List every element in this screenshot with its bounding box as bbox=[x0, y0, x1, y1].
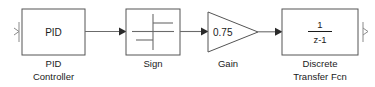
caption-discrete-transfer-fcn: Discrete Transfer Fcn bbox=[293, 58, 347, 82]
pid-caption-line-2: Controller bbox=[33, 71, 74, 82]
block-pid-controller[interactable]: PID bbox=[22, 9, 85, 55]
input-port-marker bbox=[14, 22, 19, 42]
pid-block-label: PID bbox=[45, 27, 62, 38]
transfer-fcn-caption-line-1: Discrete bbox=[303, 58, 338, 69]
pid-caption-line-1: PID bbox=[46, 58, 62, 69]
gain-block-label: 0.75 bbox=[213, 27, 233, 38]
caption-sign: Sign bbox=[143, 58, 162, 69]
signal-gain-to-transfer-fcn[interactable] bbox=[258, 28, 283, 36]
gain-caption-line-1: Gain bbox=[218, 58, 238, 69]
block-discrete-transfer-fcn[interactable]: 1 z-1 bbox=[282, 9, 358, 55]
transfer-fcn-numerator: 1 bbox=[317, 19, 322, 30]
sign-caption-line-1: Sign bbox=[143, 58, 162, 69]
signal-sign-to-gain[interactable] bbox=[180, 28, 209, 36]
output-port-marker bbox=[363, 22, 368, 42]
caption-gain: Gain bbox=[218, 58, 238, 69]
signal-pid-to-sign[interactable] bbox=[85, 28, 127, 36]
transfer-fcn-denominator: z-1 bbox=[313, 34, 326, 45]
caption-pid-controller: PID Controller bbox=[33, 58, 74, 82]
block-diagram-canvas: PID PID Controller Sign bbox=[0, 0, 375, 87]
block-sign[interactable] bbox=[126, 9, 180, 55]
block-gain[interactable]: 0.75 bbox=[208, 12, 258, 52]
diagram-svg: PID PID Controller Sign bbox=[0, 0, 375, 87]
transfer-fcn-caption-line-2: Transfer Fcn bbox=[293, 71, 347, 82]
